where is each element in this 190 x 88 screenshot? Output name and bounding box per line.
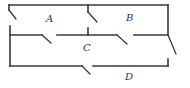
- door-c-d: [82, 66, 90, 74]
- room-label-a: A: [46, 14, 53, 24]
- room-label-b: B: [126, 13, 133, 23]
- door-a-b: [88, 12, 97, 22]
- door-a-exterior: [9, 10, 16, 19]
- floor-plan-diagram: [0, 0, 190, 88]
- door-b-c: [117, 35, 127, 44]
- door-c-exterior: [168, 35, 176, 54]
- room-label-c: C: [83, 43, 91, 53]
- room-label-d: D: [125, 72, 133, 82]
- door-a-c: [42, 35, 51, 43]
